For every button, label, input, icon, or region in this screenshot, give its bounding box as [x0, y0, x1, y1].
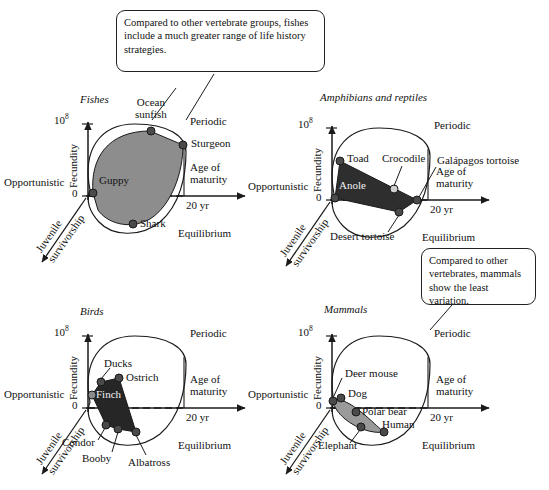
- birds-y-tick-zero-label: 0: [72, 400, 78, 412]
- mammals-y-tick-zero-label: 0: [316, 400, 322, 412]
- mammals-x-axis-label-1: Age of: [436, 374, 466, 386]
- point-dog[interactable]: [337, 394, 345, 402]
- y-tick-base: 10: [54, 114, 65, 126]
- label-guppy: Guppy: [99, 175, 129, 187]
- point-crocodile[interactable]: [390, 185, 398, 193]
- birds-ducks-leader: [101, 368, 110, 379]
- y-tick-exponent: 8: [65, 324, 69, 333]
- label-human: Human: [382, 419, 414, 431]
- birds-corner-opportunistic: Opportunistic: [4, 389, 65, 401]
- label-ducks: Ducks: [104, 358, 132, 370]
- panel-title-amphibians: Amphibians and reptiles: [320, 92, 427, 104]
- point-sturgeon[interactable]: [179, 141, 187, 149]
- amphibians-y-axis-label: Fecundity: [312, 148, 324, 192]
- y-tick-exponent: 8: [309, 324, 313, 333]
- amphibians-y-tick-top-label: 108: [298, 117, 313, 130]
- fishes-callout-leader: [186, 74, 214, 120]
- fishes-x-tick-label: 20 yr: [186, 200, 209, 212]
- life-history-figure: Fishes 108 0 Fecundity Opportunistic Per…: [0, 0, 549, 490]
- label-shark: Shark: [140, 218, 166, 230]
- label-deer-mouse: Deer mouse: [345, 368, 398, 380]
- label-anole: Anole: [339, 180, 366, 192]
- panel-title-mammals: Mammals: [324, 304, 367, 316]
- point-ducks[interactable]: [97, 378, 105, 386]
- mammals-corner-periodic: Periodic: [434, 328, 471, 340]
- label-finch: Finch: [96, 389, 121, 401]
- birds-x-tick-label: 20 yr: [186, 412, 209, 424]
- label-ocean-sunfish: Oceansunfish: [135, 97, 167, 120]
- fishes-corner-equilibrium: Equilibrium: [178, 228, 231, 240]
- y-tick-exponent: 8: [65, 112, 69, 121]
- point-desert-tortoise[interactable]: [395, 208, 403, 216]
- birds-corner-periodic: Periodic: [190, 328, 227, 340]
- amphibians-x-axis-label-1: Age of: [436, 166, 466, 178]
- mammals-x-axis-label-2: maturity: [436, 386, 473, 398]
- point-finch[interactable]: [88, 391, 96, 399]
- label-ostrich: Ostrich: [126, 372, 158, 384]
- figure-svg: [0, 0, 549, 490]
- mammals-corner-equilibrium: Equilibrium: [422, 440, 475, 452]
- point-elephant[interactable]: [357, 423, 365, 431]
- label-desert-tortoise: Desert tortoise: [330, 231, 394, 243]
- point-condor[interactable]: [102, 421, 110, 429]
- point-guppy[interactable]: [89, 189, 97, 197]
- point-booby[interactable]: [114, 425, 122, 433]
- point-anole[interactable]: [331, 194, 339, 202]
- label-elephant: Elephant: [318, 440, 357, 452]
- label-condor: Condor: [62, 437, 95, 449]
- amphibians-corner-equilibrium: Equilibrium: [422, 232, 475, 244]
- label-galapagos-tortoise: Galápagos tortoise: [437, 155, 519, 167]
- y-tick-base: 10: [54, 326, 65, 338]
- y-tick-exponent: 8: [309, 116, 313, 125]
- y-tick-base: 10: [298, 326, 309, 338]
- label-dog: Dog: [348, 388, 367, 400]
- amphibians-corner-opportunistic: Opportunistic: [248, 181, 309, 193]
- label-toad: Toad: [347, 153, 369, 165]
- point-shark[interactable]: [129, 220, 137, 228]
- point-ocean-sunfish[interactable]: [147, 127, 155, 135]
- point-ostrich[interactable]: [115, 374, 123, 382]
- point-deer-mouse[interactable]: [329, 397, 337, 405]
- panel-title-birds: Birds: [80, 306, 103, 318]
- mammals-corner-opportunistic: Opportunistic: [248, 389, 309, 401]
- birds-booby-leader: [112, 432, 118, 452]
- birds-y-tick-top-label: 108: [54, 325, 69, 338]
- point-albatross[interactable]: [132, 428, 140, 436]
- amphibians-crocodile-leader: [394, 166, 402, 186]
- birds-x-axis-label-2: maturity: [190, 386, 227, 398]
- y-tick-base: 10: [298, 118, 309, 130]
- amphibians-x-axis-label-2: maturity: [436, 178, 473, 190]
- birds-y-axis-label: Fecundity: [68, 356, 80, 400]
- fishes-y-axis-label: Fecundity: [68, 144, 80, 188]
- callout-fishes: Compared to other vertebrate groups, fis…: [116, 10, 325, 72]
- point-toad[interactable]: [336, 157, 344, 165]
- point-polar-bear[interactable]: [352, 408, 360, 416]
- mammals-y-axis-label: Fecundity: [312, 356, 324, 400]
- fishes-x-axis-label-2: maturity: [190, 174, 227, 186]
- label-booby: Booby: [82, 453, 111, 465]
- mammals-x-tick-label: 20 yr: [430, 412, 453, 424]
- panel-title-fishes: Fishes: [80, 94, 109, 106]
- mammals-y-tick-top-label: 108: [298, 325, 313, 338]
- amphibians-corner-periodic: Periodic: [434, 120, 471, 132]
- birds-region: [92, 378, 136, 432]
- fishes-x-axis-label-1: Age of: [190, 162, 220, 174]
- fishes-corner-periodic: Periodic: [190, 116, 227, 128]
- birds-corner-equilibrium: Equilibrium: [178, 440, 231, 452]
- amphibians-x-tick-label: 20 yr: [430, 204, 453, 216]
- birds-x-axis-label-1: Age of: [190, 374, 220, 386]
- callout-mammals: Compared to other vertebrates, mammals s…: [421, 248, 536, 305]
- label-polar-bear: Polar bear: [362, 406, 407, 418]
- point-galapagos-tortoise[interactable]: [413, 196, 421, 204]
- label-sturgeon: Sturgeon: [191, 138, 231, 150]
- amphibians-y-tick-zero-label: 0: [316, 192, 322, 204]
- fishes-y-tick-zero-label: 0: [72, 188, 78, 200]
- fishes-y-tick-top-label: 108: [54, 113, 69, 126]
- label-crocodile: Crocodile: [382, 153, 425, 165]
- fishes-corner-opportunistic: Opportunistic: [4, 177, 65, 189]
- label-albatross: Albatross: [128, 457, 170, 469]
